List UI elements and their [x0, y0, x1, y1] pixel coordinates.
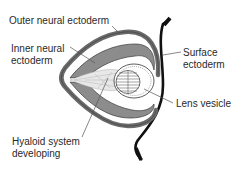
label-surface-ectoderm-line1: Surface	[183, 47, 217, 58]
lens-vesicle-shape	[114, 64, 154, 98]
label-surface-ectoderm-line2: ectoderm	[183, 59, 225, 70]
label-lens-vesicle: Lens vesicle	[176, 98, 231, 109]
eye-development-diagram: Outer neural ectoderm Inner neural ectod…	[0, 0, 247, 176]
label-inner-neural-ectoderm-line2: ectoderm	[11, 55, 53, 66]
label-hyaloid-system-line2: developing	[12, 148, 60, 159]
label-inner-neural-ectoderm-line1: Inner neural	[11, 43, 64, 54]
label-outer-neural-ectoderm: Outer neural ectoderm	[9, 15, 109, 26]
label-hyaloid-system-line1: Hyaloid system	[12, 136, 80, 147]
